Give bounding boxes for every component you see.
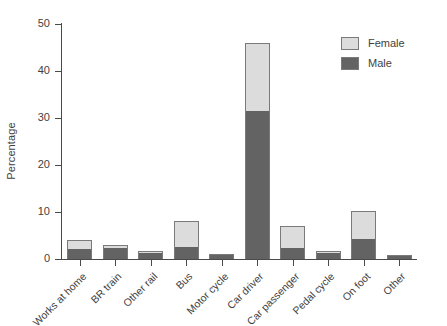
x-tick-mark — [80, 259, 81, 266]
legend-swatch — [341, 37, 359, 50]
y-tick-label: 0 — [16, 252, 50, 264]
bar-segment-female — [67, 240, 92, 248]
y-tick-label: 50 — [16, 17, 50, 29]
y-tick-label: 40 — [16, 64, 50, 76]
bar-group — [174, 221, 199, 259]
bar-group — [245, 43, 270, 259]
x-tick-mark — [257, 259, 258, 266]
bar-segment-female — [245, 43, 270, 111]
bar-segment-male — [245, 111, 270, 259]
x-tick-mark — [328, 259, 329, 266]
stacked-bar-chart: Percentage 01020304050 Works at homeBR t… — [0, 0, 447, 326]
legend-label: Male — [368, 57, 392, 69]
bar-segment-male — [351, 239, 376, 259]
chart-legend: FemaleMale — [341, 33, 405, 73]
x-tick-mark — [151, 259, 152, 266]
y-tick-label: 20 — [16, 158, 50, 170]
bar-group — [280, 226, 305, 259]
bar-group — [67, 240, 92, 259]
bar-segment-male — [387, 255, 412, 259]
y-tick-mark — [55, 71, 62, 72]
x-tick-mark — [222, 259, 223, 266]
bar-group — [138, 251, 163, 259]
y-tick-label: 10 — [16, 205, 50, 217]
bar-segment-male — [209, 254, 234, 259]
bar-group — [351, 211, 376, 259]
x-tick-mark — [364, 259, 365, 266]
bar-segment-male — [174, 247, 199, 259]
y-tick-mark — [55, 259, 62, 260]
legend-item: Male — [341, 53, 405, 73]
bar-segment-female — [280, 226, 305, 248]
bar-segment-male — [67, 249, 92, 259]
bar-segment-male — [280, 248, 305, 259]
x-tick-mark — [293, 259, 294, 266]
bar-segment-female — [174, 221, 199, 247]
y-tick-label: 30 — [16, 111, 50, 123]
legend-label: Female — [368, 37, 405, 49]
legend-item: Female — [341, 33, 405, 53]
bar-group — [316, 251, 341, 259]
y-tick-mark — [55, 24, 62, 25]
bar-group — [103, 245, 128, 259]
bar-group — [209, 254, 234, 259]
legend-swatch — [341, 57, 359, 70]
x-tick-mark — [186, 259, 187, 266]
x-tick-mark — [115, 259, 116, 266]
y-tick-mark — [55, 118, 62, 119]
y-tick-mark — [55, 212, 62, 213]
bar-segment-male — [138, 253, 163, 259]
bar-group — [387, 255, 412, 259]
bar-segment-male — [316, 253, 341, 259]
y-tick-mark — [55, 165, 62, 166]
bar-segment-female — [351, 211, 376, 239]
x-tick-mark — [399, 259, 400, 266]
bar-segment-male — [103, 248, 128, 259]
